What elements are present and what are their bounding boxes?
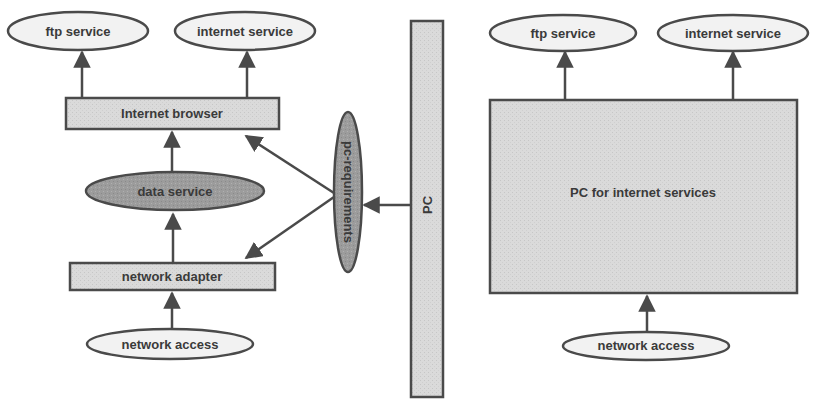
node-ftp-service-left: ftp service bbox=[8, 12, 148, 50]
label-pc: PC bbox=[420, 195, 435, 214]
label-internet-browser: Internet browser bbox=[121, 106, 223, 121]
node-pc-bar: PC bbox=[411, 21, 443, 397]
label-data-service: data service bbox=[137, 184, 212, 199]
label-pc-requirements: pc-requirements bbox=[341, 141, 356, 243]
label-network-adapter: network adapter bbox=[122, 269, 222, 284]
label-network-access-left: network access bbox=[122, 337, 219, 352]
node-internet-service-left: internet service bbox=[175, 12, 315, 50]
node-pc-for-internet-services: PC for internet services bbox=[490, 100, 797, 293]
node-internet-service-right: internet service bbox=[658, 15, 808, 51]
arrow-req-to-adapter bbox=[246, 197, 334, 258]
node-internet-browser: Internet browser bbox=[66, 98, 279, 129]
node-pc-requirements: pc-requirements bbox=[334, 112, 362, 272]
node-network-adapter: network adapter bbox=[70, 263, 275, 290]
label-ftp-service-left: ftp service bbox=[45, 24, 110, 39]
node-data-service: data service bbox=[86, 172, 264, 210]
label-network-access-right: network access bbox=[598, 338, 695, 353]
label-pc-for-internet-services: PC for internet services bbox=[570, 185, 716, 200]
label-internet-service-left: internet service bbox=[197, 24, 293, 39]
node-network-access-left: network access bbox=[87, 329, 253, 359]
node-ftp-service-right: ftp service bbox=[490, 15, 636, 51]
diagram-canvas: ftp service internet service Internet br… bbox=[0, 0, 814, 406]
label-internet-service-right: internet service bbox=[685, 26, 781, 41]
node-network-access-right: network access bbox=[563, 332, 729, 360]
label-ftp-service-right: ftp service bbox=[530, 26, 595, 41]
